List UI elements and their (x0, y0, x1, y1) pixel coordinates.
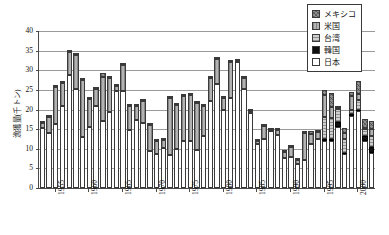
bar-segment-mx (114, 84, 119, 86)
bar (221, 97, 226, 188)
bar-segment-us (261, 126, 266, 140)
bar (53, 86, 58, 188)
legend-item-jp[interactable]: 日本 (312, 56, 356, 68)
bar-segment-us (167, 98, 172, 155)
bar-segment-us (120, 65, 125, 92)
bar (282, 151, 287, 188)
bar (241, 77, 246, 188)
x-axis-tickmark (55, 189, 56, 192)
bar-segment-mx (315, 130, 320, 132)
x-axis-tick-label: 1965 (125, 180, 133, 195)
bar-segment-kr (362, 136, 367, 141)
bar-segment-us (342, 133, 347, 139)
bar (100, 73, 105, 188)
bar-segment-mx (335, 106, 340, 108)
y-axis-tick-label: 5 (29, 164, 33, 172)
bar (60, 81, 65, 188)
bar-segment-mx (188, 93, 193, 95)
bar-segment-jp (120, 91, 125, 188)
bar-segment-mx (53, 85, 58, 87)
bar-segment-us (241, 78, 246, 89)
bar (87, 99, 92, 188)
bar-segment-tw (349, 110, 354, 114)
bar-segment-jp (140, 123, 145, 188)
y-axis-tick-label: 25 (26, 86, 34, 94)
bar-segment-mx (329, 93, 334, 107)
bar-segment-us (208, 78, 213, 101)
bar-segment-mx (194, 101, 199, 103)
bar-segment-mx (214, 57, 219, 59)
bar-segment-us (60, 83, 65, 106)
bar (140, 99, 145, 188)
bar-segment-us (174, 105, 179, 149)
bar (322, 90, 327, 188)
bar-segment-mx (174, 103, 179, 105)
bar (235, 60, 240, 188)
bar-segment-tw (369, 136, 374, 147)
bar-segment-kr (329, 139, 334, 141)
x-axis-tickmark (290, 189, 291, 192)
bar-segment-us (188, 95, 193, 141)
bar-segment-us (93, 89, 98, 105)
bar-segment-mx (302, 131, 307, 133)
bar-segment-jp (60, 106, 65, 188)
bar-segment-us (295, 160, 300, 164)
x-axis-tick-label: 1960 (91, 180, 99, 195)
bar (315, 131, 320, 188)
bar-segment-jp (87, 127, 92, 188)
bar (302, 132, 307, 188)
x-axis-tick-label: 1975 (192, 180, 200, 195)
bar-segment-tw (329, 118, 334, 138)
bar (201, 106, 206, 188)
bar-segment-mx (100, 73, 105, 78)
bar-segment-jp (308, 144, 313, 188)
legend-item-us[interactable]: 米国 (312, 20, 356, 32)
bar-segment-us (140, 101, 145, 123)
x-axis-tickmark (324, 189, 325, 192)
bar-segment-jp (201, 136, 206, 188)
bar (194, 102, 199, 188)
legend-item-mx[interactable]: メキシコ (312, 8, 356, 20)
bar-segment-mx (60, 81, 65, 83)
y-axis-tick-label: 35 (26, 47, 34, 55)
bar (342, 128, 347, 188)
bar-segment-mx (93, 87, 98, 89)
bar-segment-jp (268, 131, 273, 188)
legend-item-tw[interactable]: 台湾 (312, 32, 356, 44)
bar-segment-us (228, 62, 233, 97)
bar-segment-tw (356, 100, 361, 109)
bar-segment-jp (214, 84, 219, 188)
bar-segment-jp (221, 110, 226, 189)
y-axis-tick-label: 30 (26, 66, 34, 74)
bar-segment-jp (335, 127, 340, 188)
bar-segment-jp (46, 133, 51, 188)
bar-segment-us (282, 152, 287, 158)
bar-segment-us (80, 80, 85, 137)
legend-item-kr[interactable]: 韓国 (312, 44, 356, 56)
bar (80, 79, 85, 188)
x-axis-tick-label: 1955 (58, 180, 66, 195)
x-axis-tick-label: 2000 (360, 180, 368, 195)
x-axis-tick-label: 1985 (259, 180, 267, 195)
bar (46, 116, 51, 188)
bar (214, 58, 219, 188)
bar (181, 94, 186, 188)
bar-segment-us (356, 94, 361, 100)
bar-segment-jp (241, 89, 246, 188)
bar-segment-us (154, 141, 159, 155)
bar (261, 125, 266, 188)
bar-segment-us (369, 129, 374, 136)
bar-segment-us (201, 106, 206, 135)
bar-segment-mx (134, 104, 139, 106)
bar-segment-mx (154, 139, 159, 141)
bar-segment-jp (302, 160, 307, 188)
bar-segment-kr (322, 139, 327, 141)
stacked-bar-chart: 漁獲量(千トン) 0510152025303540 19551960196519… (0, 0, 389, 235)
bar-segment-mx (228, 60, 233, 62)
bar (107, 77, 112, 188)
x-axis-tickmark (223, 189, 224, 192)
bar-segment-jp (134, 120, 139, 188)
bar-segment-us (127, 106, 132, 130)
bar-segment-mx (147, 123, 152, 125)
bar (174, 103, 179, 188)
